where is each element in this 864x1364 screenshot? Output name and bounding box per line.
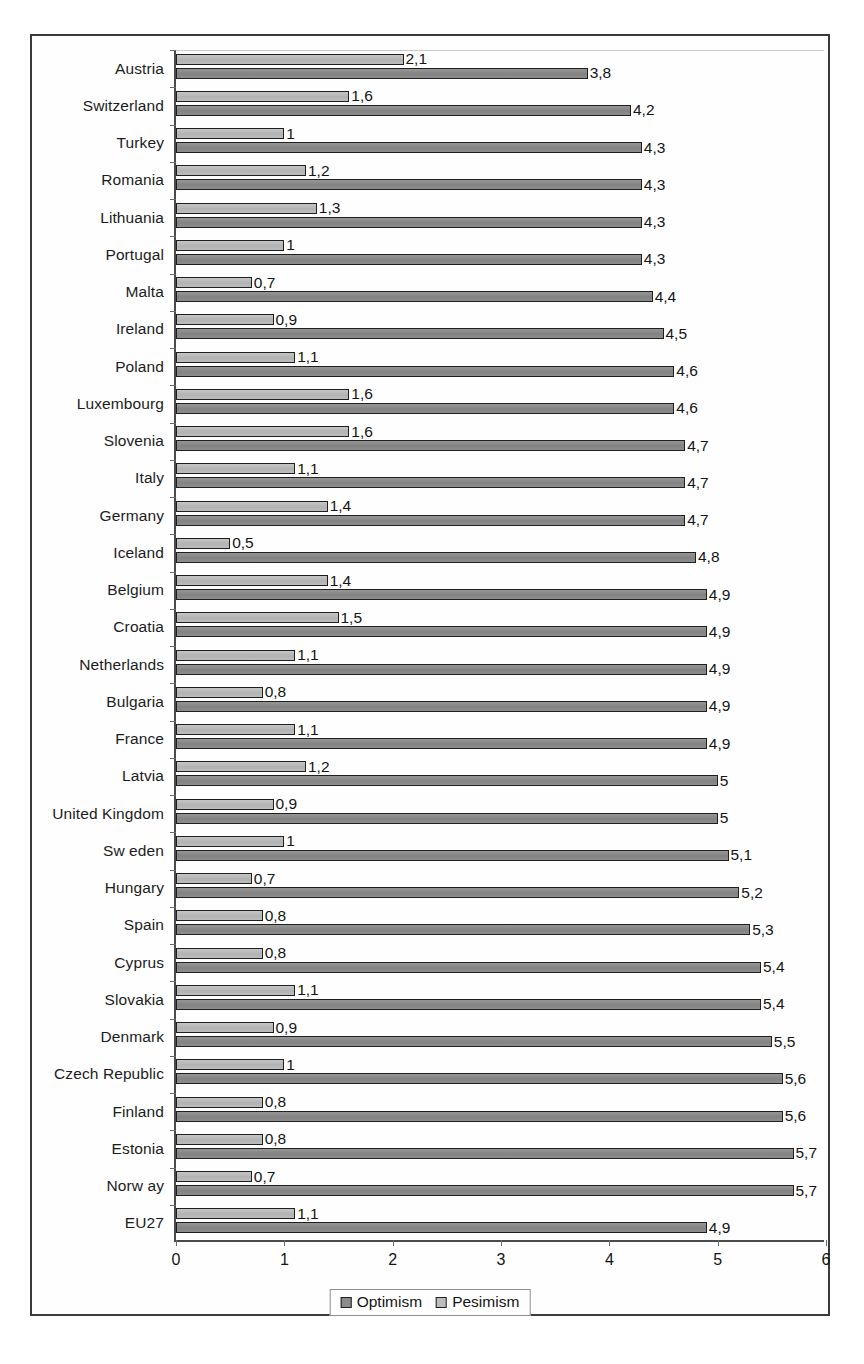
category-label: Romania [101,171,164,189]
bar-value-label: 1,1 [297,646,319,664]
category-label: Portugal [105,246,164,264]
bar-row: Ireland0,94,5 [176,311,824,348]
chart-legend: Optimism Pesimism [330,1289,531,1316]
bar-pesimism: 0,8 [176,948,263,959]
bar-row: Hungary0,75,2 [176,870,824,907]
bar-value-label: 4,9 [709,697,731,715]
legend-item-optimism: Optimism [341,1293,422,1311]
bar-pesimism: 0,8 [176,687,263,698]
x-axis: 0123456 [176,1240,824,1280]
legend-item-pesimism: Pesimism [436,1293,519,1311]
bar-value-label: 4,7 [687,473,709,491]
bar-value-label: 0,5 [232,534,254,552]
category-label: Croatia [113,618,164,636]
bar-pesimism: 1,6 [176,426,349,437]
category-label: Cyprus [114,954,164,972]
y-axis-tick [170,758,176,759]
bar-optimism: 5,3 [176,924,750,935]
bar-value-label: 1,2 [308,161,330,179]
bar-value-label: 5,6 [785,1107,807,1125]
bar-row: Switzerland1,64,2 [176,87,824,124]
y-axis-tick [170,125,176,126]
y-axis-tick [170,162,176,163]
bar-value-label: 1,2 [308,757,330,775]
bar-row: Denmark0,95,5 [176,1019,824,1056]
bar-value-label: 5,4 [763,958,785,976]
bar-pesimism: 0,7 [176,1171,252,1182]
bar-pesimism: 1,6 [176,389,349,400]
category-label: Poland [115,358,164,376]
bar-pesimism: 1 [176,240,284,251]
bar-pesimism: 0,7 [176,873,252,884]
x-axis-tick-label: 0 [172,1251,181,1269]
x-axis-tick-label: 3 [497,1251,506,1269]
bar-optimism: 4,4 [176,291,653,302]
bar-optimism: 4,7 [176,515,685,526]
bar-value-label: 3,8 [590,64,612,82]
x-axis-tick [718,1240,719,1246]
bar-optimism: 5,5 [176,1036,772,1047]
y-axis-tick [170,50,176,51]
y-axis-tick [170,944,176,945]
bar-value-label: 4,8 [698,548,720,566]
y-axis-tick [170,981,176,982]
bar-value-label: 4,9 [709,585,731,603]
bar-optimism: 4,3 [176,142,642,153]
bar-row: Romania1,24,3 [176,162,824,199]
bar-pesimism: 1,1 [176,463,295,474]
bar-value-label: 5,6 [785,1069,807,1087]
bar-value-label: 0,8 [265,906,287,924]
bar-optimism: 4,2 [176,105,631,116]
bar-value-label: 1 [286,1055,295,1073]
bar-row: Estonia0,85,7 [176,1130,824,1167]
bar-value-label: 1,1 [297,459,319,477]
bar-value-label: 1,6 [351,422,373,440]
bar-value-label: 4,6 [676,362,698,380]
bar-optimism: 4,9 [176,701,707,712]
bar-value-label: 5 [720,809,729,827]
bar-pesimism: 1,5 [176,612,339,623]
y-axis-tick [170,907,176,908]
plot-area: Austria2,13,8Switzerland1,64,2Turkey14,3… [174,50,824,1242]
y-axis-tick [170,497,176,498]
bar-pesimism: 1,2 [176,761,306,772]
bar-row: Bulgaria0,84,9 [176,683,824,720]
bar-value-label: 5,1 [731,846,753,864]
category-label: Finland [112,1103,164,1121]
bar-row: Luxembourg1,64,6 [176,385,824,422]
y-axis-tick [170,572,176,573]
category-label: Bulgaria [106,693,164,711]
bar-value-label: 2,1 [406,50,428,68]
x-axis-tick-label: 6 [822,1251,831,1269]
bar-pesimism: 1 [176,836,284,847]
bar-row: Germany1,44,7 [176,497,824,534]
bar-optimism: 5,1 [176,850,729,861]
bar-value-label: 0,8 [265,683,287,701]
bar-optimism: 4,3 [176,179,642,190]
bar-row: Portugal14,3 [176,236,824,273]
bar-value-label: 1,1 [297,348,319,366]
bar-pesimism: 1 [176,1059,284,1070]
bar-pesimism: 1,1 [176,985,295,996]
bar-value-label: 0,9 [276,310,298,328]
bar-value-label: 1,1 [297,1204,319,1222]
bar-optimism: 5,6 [176,1111,783,1122]
bar-optimism: 5,4 [176,999,761,1010]
bar-value-label: 4,3 [644,138,666,156]
bar-value-label: 5,5 [774,1032,796,1050]
bar-optimism: 4,7 [176,440,685,451]
bar-row: Cyprus0,85,4 [176,944,824,981]
bar-value-label: 5,2 [741,883,763,901]
x-axis-tick-label: 5 [713,1251,722,1269]
bar-pesimism: 1,6 [176,91,349,102]
category-label: Turkey [117,134,164,152]
bar-value-label: 4,7 [687,436,709,454]
bar-optimism: 4,3 [176,254,642,265]
bar-value-label: 4,6 [676,399,698,417]
bar-value-label: 0,7 [254,1167,276,1185]
y-axis-tick [170,1168,176,1169]
category-label: Italy [135,469,164,487]
bar-value-label: 4,9 [709,622,731,640]
legend-swatch-pesimism-icon [436,1297,447,1308]
bar-value-label: 0,8 [265,1130,287,1148]
